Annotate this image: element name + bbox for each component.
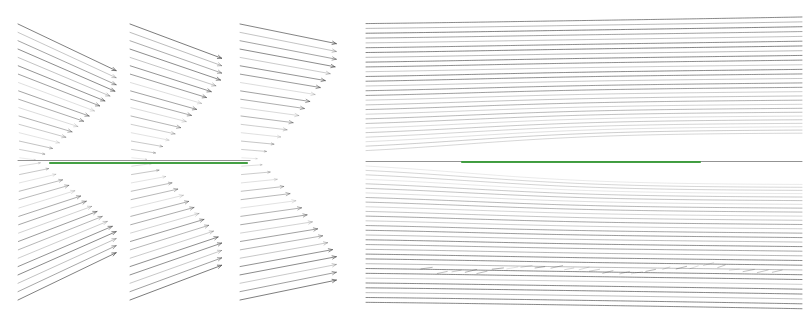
flow-figure [0, 0, 804, 315]
panel-velocity-vectors-station-3 [240, 24, 340, 300]
panel-velocity-vectors-station-2 [130, 24, 225, 300]
panel-velocity-vectors-station-1 [18, 24, 120, 300]
panel-streamline-field [366, 24, 802, 302]
